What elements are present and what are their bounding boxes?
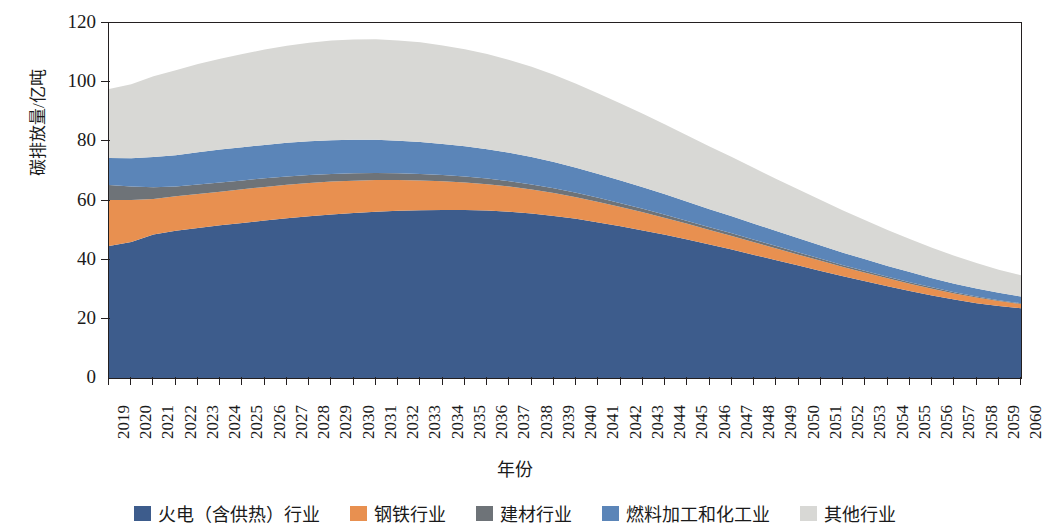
x-tick-label: 2032	[404, 381, 421, 439]
y-axis-tick-labels: 120100806040200	[32, 0, 96, 400]
legend-item[interactable]: 其他行业	[800, 500, 896, 526]
x-tick-label: 2030	[360, 381, 377, 439]
x-tick-label: 2021	[159, 381, 176, 439]
y-tick-label: 120	[36, 12, 96, 31]
legend-swatch-building-materials	[476, 506, 493, 521]
y-tick-label: 20	[36, 308, 96, 327]
x-tick-label: 2034	[449, 381, 466, 439]
y-tick-label: 60	[36, 190, 96, 209]
x-tick-label: 2048	[760, 381, 777, 439]
x-tick-label: 2060	[1027, 381, 1044, 439]
x-tick-label: 2025	[248, 381, 265, 439]
y-tick-mark	[101, 22, 110, 23]
x-tick-label: 2047	[738, 381, 755, 439]
x-tick-label: 2049	[782, 381, 799, 439]
x-tick-label: 2036	[493, 381, 510, 439]
y-tick-mark	[101, 200, 110, 201]
x-tick-label: 2020	[137, 381, 154, 439]
x-tick-label: 2035	[471, 381, 488, 439]
area-series-group	[109, 23, 1021, 378]
x-tick-label: 2046	[716, 381, 733, 439]
legend-swatch-fuel-chemical	[602, 506, 619, 521]
x-axis-tick-labels: 2019202020212022202320242025202620272028…	[0, 381, 1029, 451]
y-tick-label: 80	[36, 130, 96, 149]
x-tick-label: 2019	[115, 381, 132, 439]
legend-swatch-steel	[350, 506, 367, 521]
x-tick-label: 2055	[916, 381, 933, 439]
x-tick-label: 2044	[671, 381, 688, 439]
y-tick-mark	[101, 318, 110, 319]
x-tick-label: 2056	[938, 381, 955, 439]
plot-area	[108, 22, 1022, 379]
x-tick-label: 2029	[337, 381, 354, 439]
x-tick-label: 2037	[515, 381, 532, 439]
x-tick-label: 2043	[649, 381, 666, 439]
x-tick-label: 2027	[293, 381, 310, 439]
x-tick-label: 2026	[271, 381, 288, 439]
x-tick-label: 2059	[1005, 381, 1022, 439]
x-tick-label: 2050	[805, 381, 822, 439]
x-tick-label: 2033	[426, 381, 443, 439]
legend-item-label: 钢铁行业	[374, 500, 446, 526]
x-tick-label: 2057	[960, 381, 977, 439]
x-tick-label: 2023	[204, 381, 221, 439]
x-tick-label: 2053	[871, 381, 888, 439]
x-tick-label: 2045	[693, 381, 710, 439]
x-tick-label: 2042	[627, 381, 644, 439]
legend-item[interactable]: 建材行业	[476, 500, 572, 526]
legend-item[interactable]: 燃料加工和化工业	[602, 500, 770, 526]
legend-item-label: 其他行业	[824, 500, 896, 526]
y-tick-label: 100	[36, 71, 96, 90]
y-tick-mark	[101, 259, 110, 260]
x-tick-label: 2052	[849, 381, 866, 439]
legend-item-label: 建材行业	[500, 500, 572, 526]
x-tick-label: 2022	[182, 381, 199, 439]
x-tick-label: 2024	[226, 381, 243, 439]
x-tick-label: 2028	[315, 381, 332, 439]
y-tick-mark	[101, 81, 110, 82]
x-axis-title: 年份	[0, 455, 1029, 481]
legend-swatch-thermal-power	[134, 506, 151, 521]
legend-item[interactable]: 钢铁行业	[350, 500, 446, 526]
x-tick-label: 2041	[604, 381, 621, 439]
legend-swatch-other	[800, 506, 817, 521]
x-tick-label: 2040	[582, 381, 599, 439]
x-tick-label: 2051	[827, 381, 844, 439]
legend-item-label: 燃料加工和化工业	[626, 500, 770, 526]
y-tick-label: 40	[36, 249, 96, 268]
y-tick-mark	[101, 140, 110, 141]
legend-item[interactable]: 火电（含供热）行业	[134, 500, 320, 526]
x-tick-label: 2054	[894, 381, 911, 439]
x-tick-label: 2058	[983, 381, 1000, 439]
chart-legend: 火电（含供热）行业钢铁行业建材行业燃料加工和化工业其他行业	[0, 500, 1029, 526]
legend-item-label: 火电（含供热）行业	[158, 500, 320, 526]
x-tick-label: 2031	[382, 381, 399, 439]
x-tick-label: 2038	[538, 381, 555, 439]
x-tick-label: 2039	[560, 381, 577, 439]
